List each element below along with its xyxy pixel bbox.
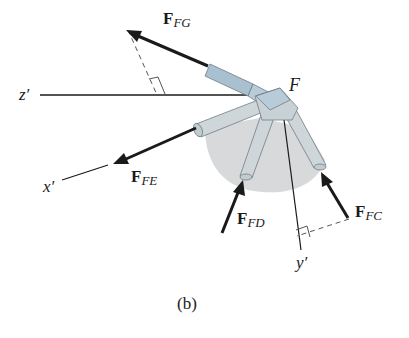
truss-joint-free-body-diagram <box>0 0 409 338</box>
force-label-fd: FFD <box>237 210 265 227</box>
force-label-fc: FFC <box>355 203 382 220</box>
y-axis-label: y′ <box>296 254 307 271</box>
x-axis-label: x′ <box>43 178 54 195</box>
force-label-fe: FFE <box>131 168 157 185</box>
force-arrow-fc <box>321 172 348 218</box>
x-axis-line <box>62 165 108 180</box>
fc-projection-dashed <box>297 219 349 236</box>
force-arrow-fe <box>113 128 196 164</box>
fg-projection-dashed <box>128 30 157 95</box>
force-arrow-fg <box>126 30 208 66</box>
fg-right-angle-mark <box>149 77 165 94</box>
force-label-fg: FFG <box>163 10 191 27</box>
figure-caption: (b) <box>177 295 197 312</box>
joint-label: F <box>289 76 300 94</box>
z-axis-label: z′ <box>19 86 29 103</box>
